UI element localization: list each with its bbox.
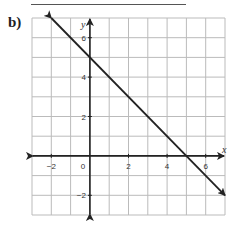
x-tick-label: −2: [47, 162, 57, 171]
coordinate-graph: −20246642−2xy: [0, 0, 234, 226]
grid-lines: [32, 18, 225, 215]
y-tick-label: 6: [81, 34, 86, 43]
y-tick-label: 4: [81, 73, 86, 82]
x-tick-label: 4: [165, 162, 170, 171]
tick-labels: −20246642−2xy: [47, 19, 227, 200]
graph-line: [51, 18, 225, 195]
x-tick-label: 6: [203, 162, 208, 171]
x-tick-label: 0: [81, 162, 86, 171]
y-tick-label: 2: [81, 113, 86, 122]
x-tick-label: 2: [126, 162, 131, 171]
x-axis-label: x: [221, 144, 227, 155]
y-tick-label: −2: [77, 191, 87, 200]
y-axis-label: y: [80, 19, 86, 30]
